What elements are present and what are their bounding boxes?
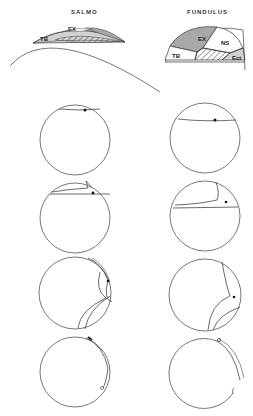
salmo-stage-2: [40, 181, 110, 253]
salmo-stage-1: [40, 105, 110, 175]
fundulus-label-ect: Ect: [232, 55, 241, 61]
fundulus-stage-3: [169, 259, 241, 331]
fundulus-stage-2: [170, 181, 240, 251]
fundulus-label-tb: TB: [172, 53, 181, 59]
salmo-stage-3: [39, 257, 112, 329]
fundulus-label-ns: NS: [221, 40, 229, 46]
fundulus-fate-map: EX NS TB Ect: [165, 27, 245, 70]
fundulus-label-ex: EX: [198, 36, 206, 42]
salmo-label-tb: TB: [40, 36, 49, 42]
embryo-diagram: TB EX EX NS TB Ect: [0, 0, 253, 416]
fundulus-stage-1: [170, 103, 240, 173]
salmo-stage-4: [40, 337, 110, 407]
salmo-fate-map: TB EX: [10, 26, 160, 92]
salmo-label-ex: EX: [68, 26, 76, 32]
fundulus-stage-4: [169, 338, 244, 408]
